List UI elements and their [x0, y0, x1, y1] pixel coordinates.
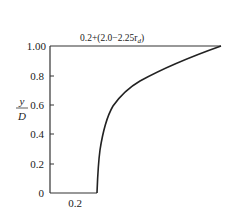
ylabel-denominator: D	[17, 110, 26, 122]
axes	[50, 46, 221, 193]
ytick-2: 0.4	[30, 128, 44, 140]
xtick-0: 0.2	[68, 197, 82, 209]
ytick-4: 0.8	[30, 70, 44, 82]
ytick-1: 0.2	[30, 158, 44, 170]
ytick-3: 0.6	[30, 99, 44, 111]
ylabel-numerator: y	[19, 95, 25, 107]
profile-curve	[97, 46, 221, 193]
y-axis-label: y D	[16, 95, 28, 122]
chart: 0 0.2 0.4 0.6 0.8 1.00 0.2 y D 0.2+(2.0−…	[0, 0, 239, 218]
ytick-5: 1.00	[27, 40, 47, 52]
ytick-0: 0	[39, 187, 45, 199]
annotation: 0.2+(2.0−2.25rd)	[80, 33, 144, 45]
y-tick-labels: 0 0.2 0.4 0.6 0.8 1.00	[27, 40, 47, 199]
